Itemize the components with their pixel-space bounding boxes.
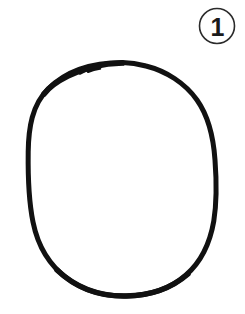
reference-number-badge: 1 — [200, 9, 235, 44]
canvas-background — [0, 0, 245, 314]
badge-number-label: 1 — [211, 13, 225, 41]
figure-container: 1 — [0, 0, 245, 314]
figure-canvas: 1 — [0, 0, 245, 314]
